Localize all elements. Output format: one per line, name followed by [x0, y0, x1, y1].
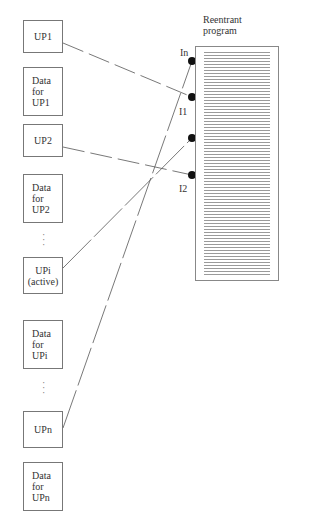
data-up2-line1: Data: [32, 182, 51, 193]
up1-box: UP1: [23, 20, 63, 53]
data-up1-line3: UP1: [32, 97, 51, 108]
upi-box: UPi (active): [23, 257, 63, 294]
upn-box: UPn: [23, 411, 63, 448]
program-title-line2: program: [203, 25, 242, 36]
up2-label: UP2: [34, 135, 52, 146]
data-upi-line3: UPi: [32, 350, 51, 361]
ellipsis-1: ···: [42, 232, 45, 247]
data-upi-line2: for: [32, 339, 51, 350]
data-upn-line2: for: [32, 481, 51, 492]
ellipsis-2: ···: [42, 380, 45, 395]
data-up2-line3: UP2: [32, 204, 51, 215]
upi-active-label: (active): [28, 276, 59, 287]
data-upn-box: Data for UPn: [23, 462, 63, 511]
reentrant-program-box: [195, 46, 279, 281]
data-up2-line2: for: [32, 193, 51, 204]
program-title: Reentrant program: [203, 14, 242, 36]
entry-label-in: In: [180, 47, 188, 58]
data-up1-line2: for: [32, 86, 51, 97]
program-code-lines: [204, 52, 270, 275]
data-upi-box: Data for UPi: [23, 320, 63, 369]
data-upn-line3: UPn: [32, 492, 51, 503]
entry-label-i1: I1: [179, 106, 187, 117]
entry-label-i2: I2: [179, 183, 187, 194]
data-up1-line1: Data: [32, 75, 51, 86]
up1-label: UP1: [34, 31, 52, 42]
data-upn-line1: Data: [32, 470, 51, 481]
upn-label: UPn: [34, 424, 52, 435]
data-upi-line1: Data: [32, 328, 51, 339]
up2-box: UP2: [23, 124, 63, 157]
program-title-line1: Reentrant: [203, 14, 242, 25]
upi-label: UPi: [28, 265, 59, 276]
data-up1-box: Data for UP1: [23, 67, 63, 116]
data-up2-box: Data for UP2: [23, 174, 63, 223]
